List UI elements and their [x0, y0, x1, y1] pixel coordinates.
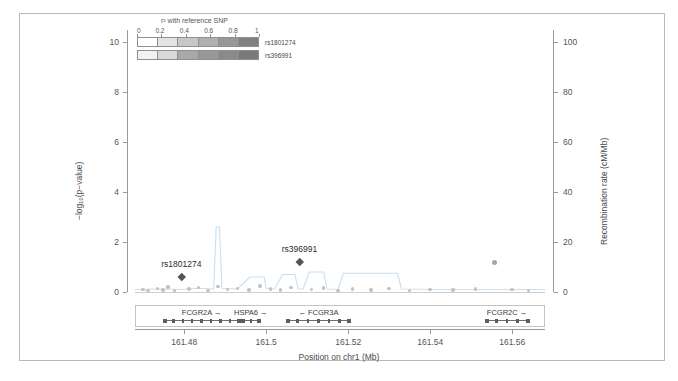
- bottom-axis-label: 161.52: [318, 337, 378, 347]
- left-axis-label: 8: [93, 87, 119, 97]
- snp-label-rs396991: rs396991: [269, 244, 329, 254]
- bottom-axis-label: 161.48: [154, 337, 214, 347]
- data-point: [474, 287, 478, 291]
- gene-exon: [163, 319, 167, 323]
- left-axis-tick: [123, 292, 127, 293]
- right-axis-label: 80: [563, 87, 572, 97]
- left-axis-tick: [123, 242, 127, 243]
- gene-exon: [210, 319, 213, 323]
- gene-label-FCGR3A: ← FCGR3A: [284, 308, 352, 317]
- data-point: [247, 288, 251, 292]
- snp-label-rs1801274: rs1801274: [151, 259, 211, 269]
- legend-title: r² with reference SNP: [161, 17, 228, 24]
- gene-label-HSPA6: HSPA6 →: [217, 308, 285, 317]
- gene-exon: [200, 319, 203, 323]
- data-point: [428, 288, 432, 292]
- gene-exon: [250, 319, 253, 323]
- gene-exon: [328, 319, 331, 323]
- gene-exon: [241, 319, 245, 323]
- left-axis-title: −log₁₀(p−value): [74, 162, 84, 220]
- gene-exon: [317, 319, 320, 323]
- bottom-axis-label: 161.5: [236, 337, 296, 347]
- bottom-axis-line: [135, 329, 545, 330]
- data-point: [187, 287, 191, 291]
- left-axis-tick: [123, 92, 127, 93]
- bottom-axis-label: 161.56: [482, 337, 542, 347]
- data-point: [166, 285, 170, 289]
- bottom-axis-title: Position on chr1 (Mb): [0, 352, 678, 362]
- right-axis-tick: [554, 242, 558, 243]
- right-axis-tick: [554, 42, 558, 43]
- data-point: [226, 288, 230, 292]
- left-axis-label: 0: [93, 287, 119, 297]
- right-axis-tick: [554, 142, 558, 143]
- data-point: [216, 285, 220, 289]
- bottom-axis-tick: [512, 329, 513, 334]
- gene-exon: [229, 319, 232, 323]
- gene-exon: [307, 319, 310, 323]
- right-axis-label: 100: [563, 37, 577, 47]
- left-axis-label: 10: [93, 37, 119, 47]
- data-point: [351, 287, 355, 291]
- data-point: [258, 284, 262, 288]
- right-axis-tick: [554, 292, 558, 293]
- panel-baseline: [135, 292, 545, 293]
- right-axis-label: 60: [563, 137, 572, 147]
- right-axis-label: 40: [563, 187, 572, 197]
- bottom-axis-tick: [348, 329, 349, 334]
- recombination-rate-line: [135, 30, 545, 292]
- left-axis-tick: [123, 142, 127, 143]
- data-point: [269, 287, 273, 291]
- figure-root: r² with reference SNP 00.20.40.60.81 rs1…: [0, 0, 678, 381]
- gene-exon: [219, 319, 222, 323]
- right-axis-title: Recombination rate (cM/Mb): [599, 138, 609, 245]
- gene-exon: [286, 319, 290, 323]
- data-point: [322, 286, 326, 290]
- right-axis-tick: [554, 92, 558, 93]
- left-axis-label: 4: [93, 187, 119, 197]
- gene-exon: [347, 319, 351, 323]
- gene-label-FCGR2C: FCGR2C →: [473, 308, 541, 317]
- gene-exon: [191, 319, 194, 323]
- bottom-axis-tick: [266, 329, 267, 334]
- gene-exon: [495, 319, 498, 323]
- left-axis-label: 6: [93, 137, 119, 147]
- data-point: [369, 288, 373, 292]
- left-axis-label: 2: [93, 237, 119, 247]
- left-axis-tick: [123, 192, 127, 193]
- gene-exon: [516, 319, 519, 323]
- gene-exon: [257, 319, 261, 323]
- bottom-axis-tick: [430, 329, 431, 334]
- gene-exon: [506, 319, 509, 323]
- gene-exon: [182, 319, 185, 323]
- bottom-axis-label: 161.54: [400, 337, 460, 347]
- gene-exon: [485, 319, 489, 323]
- right-axis-tick: [554, 192, 558, 193]
- gene-track: FCGR2A →HSPA6 →← FCGR3AFCGR2C →: [135, 305, 545, 327]
- plot-panel: rs1801274rs396991: [135, 30, 545, 292]
- gene-exon: [526, 319, 530, 323]
- right-axis-label: 0: [563, 287, 568, 297]
- gene-exon: [296, 319, 299, 323]
- left-axis-line: [127, 30, 128, 292]
- data-point: [289, 286, 293, 290]
- right-axis-line: [553, 30, 554, 292]
- gene-exon: [338, 319, 341, 323]
- gene-exon: [172, 319, 175, 323]
- bottom-axis-tick: [184, 329, 185, 334]
- data-point: [492, 260, 497, 265]
- left-axis-tick: [123, 42, 127, 43]
- right-axis-label: 20: [563, 237, 572, 247]
